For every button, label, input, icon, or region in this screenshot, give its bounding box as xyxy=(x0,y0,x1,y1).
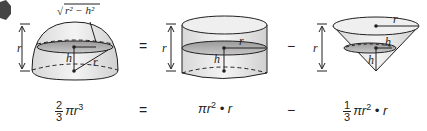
formula-hemisphere: 23πr3 xyxy=(55,100,83,123)
formula-text: πr xyxy=(353,103,366,118)
formula-text: πr xyxy=(65,103,78,118)
svg-text:r: r xyxy=(162,41,167,55)
svg-text:r: r xyxy=(393,12,398,26)
svg-text:h: h xyxy=(214,52,220,66)
formula-text: • r xyxy=(216,101,232,116)
fraction: 13 xyxy=(343,100,351,123)
equals-operator-bottom: = xyxy=(139,102,147,118)
svg-text:√: √ xyxy=(57,5,64,17)
exponent: 3 xyxy=(78,102,83,112)
svg-text:r: r xyxy=(93,55,98,69)
cylinder-figure: r r h xyxy=(162,16,267,79)
svg-text:h: h xyxy=(66,51,72,65)
cone-figure: r r h h xyxy=(313,12,419,71)
svg-text:h: h xyxy=(385,35,391,49)
formula-cone: 13πr2 • r xyxy=(343,100,387,123)
denominator: 3 xyxy=(55,112,63,123)
equals-operator-top: = xyxy=(139,38,147,54)
svg-text:r: r xyxy=(17,41,22,55)
formula-text: πr xyxy=(198,101,211,116)
fraction: 23 xyxy=(55,100,63,123)
svg-text:r: r xyxy=(313,41,318,55)
hemisphere-figure: r h r √ r² − h² xyxy=(17,4,118,80)
svg-text:r² − h²: r² − h² xyxy=(65,4,95,16)
formula-text: • r xyxy=(371,103,387,118)
formula-cylinder: πr2 • r xyxy=(198,100,232,116)
hexagon-badge-icon xyxy=(0,0,11,20)
denominator: 3 xyxy=(343,112,351,123)
svg-text:r: r xyxy=(239,34,244,48)
minus-operator-bottom: − xyxy=(287,102,295,118)
minus-operator-top: − xyxy=(287,38,295,54)
svg-text:h: h xyxy=(368,53,374,67)
